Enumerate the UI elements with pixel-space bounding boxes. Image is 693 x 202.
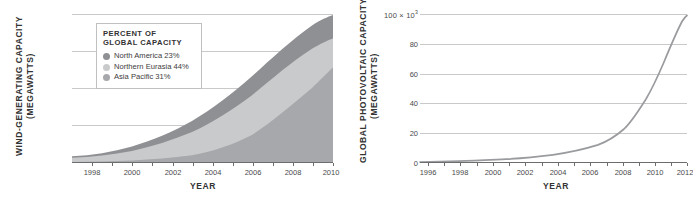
pv-xtick-2012: 2012 bbox=[677, 168, 693, 177]
pv-xtick-mark-2007 bbox=[607, 163, 608, 166]
wind-y-axis-title-line2: (MEGAWATTS) bbox=[25, 10, 36, 162]
pv-xtick-1998: 1998 bbox=[452, 168, 469, 177]
wind-y-axis-title-line1: WIND-GENERATING CAPACITY bbox=[14, 10, 25, 162]
legend-label-north-america: North America 23% bbox=[114, 51, 179, 61]
wind-xtick-mark-2009 bbox=[313, 163, 314, 166]
wind-xtick-2008: 2008 bbox=[285, 168, 302, 177]
pv-xtick-mark-2011 bbox=[671, 163, 672, 166]
wind-x-axis-title: YEAR bbox=[190, 181, 216, 191]
wind-xtick-1998: 1998 bbox=[84, 168, 101, 177]
pv-xtick-mark-2002 bbox=[525, 163, 526, 166]
pv-xtick-mark-2012 bbox=[687, 163, 688, 166]
pv-capacity-line bbox=[420, 14, 687, 163]
wind-xtick-2002: 2002 bbox=[165, 168, 182, 177]
wind-xtick-mark-2008 bbox=[293, 163, 294, 166]
pv-ytick-100: 100 × 103 bbox=[384, 9, 418, 20]
pv-xtick-mark-2005 bbox=[574, 163, 575, 166]
wind-xtick-mark-2005 bbox=[233, 163, 234, 166]
pv-y-axis-title-line2: (MEGAWATTS) bbox=[369, 9, 380, 163]
pv-ytick-20: 20 bbox=[410, 129, 418, 138]
pv-ytick-40: 40 bbox=[410, 99, 418, 108]
pv-xtick-mark-2000 bbox=[493, 163, 494, 166]
legend-item-north-america: North America 23% bbox=[103, 51, 194, 61]
photovoltaic-capacity-chart-panel: GLOBAL PHOTOVOLTAIC CAPACITY (MEGAWATTS)… bbox=[346, 0, 691, 202]
legend-item-northern-eurasia: Northern Eurasia 44% bbox=[103, 62, 194, 72]
pv-line-path bbox=[420, 16, 687, 163]
pv-xtick-mark-2003 bbox=[542, 163, 543, 166]
pv-xtick-2000: 2000 bbox=[485, 168, 502, 177]
legend-title-line2: GLOBAL CAPACITY bbox=[103, 38, 194, 47]
wind-xtick-mark-2010 bbox=[333, 163, 334, 166]
wind-xtick-mark-2002 bbox=[173, 163, 174, 166]
pv-xtick-1996: 1996 bbox=[420, 168, 437, 177]
pv-xtick-mark-2006 bbox=[590, 163, 591, 166]
legend-box: PERCENT OF GLOBAL CAPACITY North America… bbox=[96, 23, 202, 89]
wind-xtick-2010: 2010 bbox=[323, 168, 340, 177]
wind-xtick-mark-2000 bbox=[132, 163, 133, 166]
wind-xtick-2006: 2006 bbox=[245, 168, 262, 177]
wind-xtick-mark-1998 bbox=[92, 163, 93, 166]
pv-ytick-0: 0 bbox=[414, 159, 418, 168]
wind-xtick-mark-1999 bbox=[112, 163, 113, 166]
pv-xtick-2010: 2010 bbox=[647, 168, 664, 177]
legend-swatch-north-america-icon bbox=[103, 53, 110, 60]
legend-title-line1: PERCENT OF bbox=[103, 29, 194, 38]
wind-xtick-mark-2004 bbox=[213, 163, 214, 166]
wind-xtick-mark-2007 bbox=[273, 163, 274, 166]
pv-ytick-60: 60 bbox=[410, 69, 418, 78]
wind-xtick-2000: 2000 bbox=[124, 168, 141, 177]
pv-y-axis-title-line1: GLOBAL PHOTOVOLTAIC CAPACITY bbox=[358, 9, 369, 163]
legend-title: PERCENT OF GLOBAL CAPACITY bbox=[103, 29, 194, 47]
pv-ytick-80: 80 bbox=[410, 39, 418, 48]
wind-xtick-mark-2003 bbox=[193, 163, 194, 166]
legend-label-northern-eurasia: Northern Eurasia 44% bbox=[114, 62, 189, 72]
pv-xtick-2008: 2008 bbox=[615, 168, 632, 177]
legend-swatch-asia-pacific-icon bbox=[103, 74, 110, 81]
pv-xtick-mark-1999 bbox=[477, 163, 478, 166]
pv-xtick-mark-2004 bbox=[558, 163, 559, 166]
pv-xtick-mark-2009 bbox=[639, 163, 640, 166]
pv-xtick-mark-2008 bbox=[623, 163, 624, 166]
pv-x-axis-title: YEAR bbox=[543, 181, 569, 191]
wind-capacity-chart-panel: WIND-GENERATING CAPACITY (MEGAWATTS) 200… bbox=[0, 0, 345, 202]
pv-xtick-mark-1997 bbox=[444, 163, 445, 166]
wind-y-axis-title: WIND-GENERATING CAPACITY (MEGAWATTS) bbox=[14, 10, 35, 162]
pv-xtick-mark-1998 bbox=[460, 163, 461, 166]
pv-xtick-mark-2010 bbox=[655, 163, 656, 166]
legend-label-asia-pacific: Asia Pacific 31% bbox=[114, 72, 171, 82]
pv-xtick-mark-2001 bbox=[509, 163, 510, 166]
pv-xtick-2002: 2002 bbox=[517, 168, 534, 177]
pv-xtick-2006: 2006 bbox=[582, 168, 599, 177]
legend-swatch-northern-eurasia-icon bbox=[103, 64, 110, 71]
wind-xtick-mark-2006 bbox=[253, 163, 254, 166]
pv-plot-area bbox=[420, 14, 687, 163]
legend-item-asia-pacific: Asia Pacific 31% bbox=[103, 72, 194, 82]
wind-xtick-mark-2001 bbox=[152, 163, 153, 166]
wind-xtick-2004: 2004 bbox=[205, 168, 222, 177]
pv-xtick-2004: 2004 bbox=[550, 168, 567, 177]
pv-y-axis-title: GLOBAL PHOTOVOLTAIC CAPACITY (MEGAWATTS) bbox=[358, 9, 379, 163]
pv-xtick-mark-1996 bbox=[428, 163, 429, 166]
